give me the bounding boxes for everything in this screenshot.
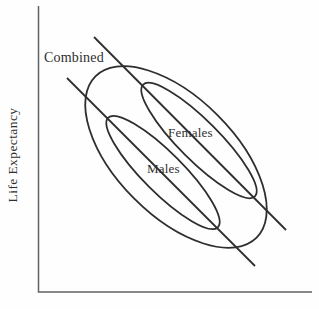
plot-axes — [39, 6, 313, 292]
y-axis-label: Life Expectancy — [5, 108, 20, 203]
diagram-canvas: Combined Females Males Life Expectancy — [0, 0, 319, 309]
females-label: Females — [168, 125, 213, 140]
combined-label: Combined — [44, 50, 104, 65]
males-label: Males — [147, 161, 180, 176]
females-ellipse — [129, 70, 269, 210]
ellipse-correlation-diagram: Combined Females Males Life Expectancy — [0, 0, 319, 309]
